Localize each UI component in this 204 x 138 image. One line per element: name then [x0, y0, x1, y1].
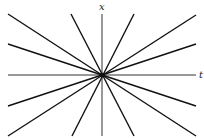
origin-point: [100, 73, 104, 77]
x-axis-label: x: [99, 2, 105, 12]
fan-diagram: [0, 0, 204, 138]
t-axis-label: t: [199, 70, 203, 80]
